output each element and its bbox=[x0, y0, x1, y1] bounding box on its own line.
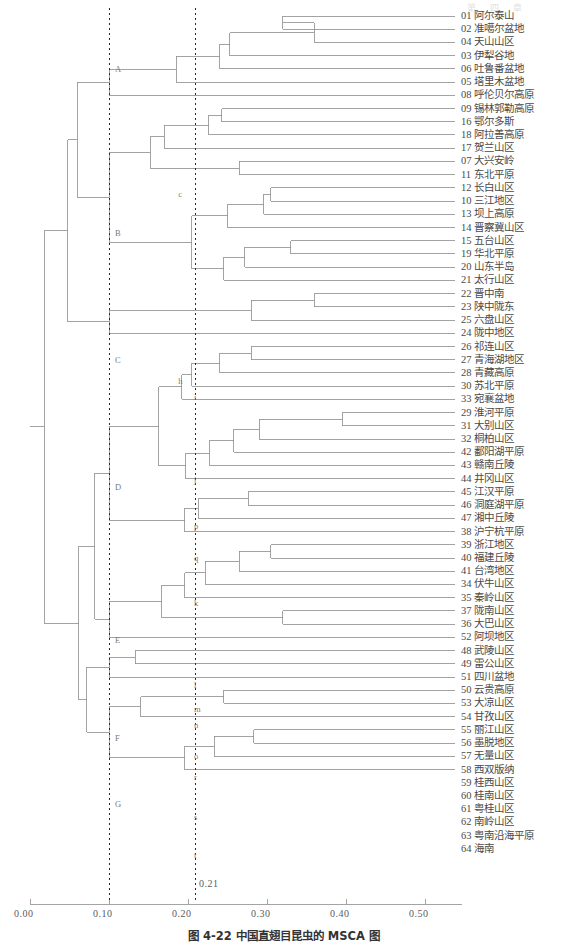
leaf-label: 44 井冈山区 bbox=[461, 473, 514, 484]
leaf-label: 22 晋中南 bbox=[461, 288, 504, 299]
leaf-label: 53 大凉山区 bbox=[461, 697, 514, 708]
leaf-label: 02 准噶尔盆地 bbox=[461, 23, 524, 34]
leaf-label: 03 伊犁谷地 bbox=[461, 50, 514, 61]
leaf-label: 38 沪宁杭平原 bbox=[461, 526, 524, 537]
leaf-label: 42 鄱阳湖平原 bbox=[461, 446, 524, 457]
cluster-label-m: m bbox=[194, 704, 201, 714]
leaf-label: 64 海南 bbox=[461, 843, 494, 854]
leaf-label: 45 江汉平原 bbox=[461, 486, 514, 497]
leaf-label: 07 大兴安岭 bbox=[461, 155, 514, 166]
leaf-label: 10 三江地区 bbox=[461, 195, 514, 206]
leaf-label: 09 锡林郭勒高原 bbox=[461, 103, 534, 114]
leaf-label: 30 苏北平原 bbox=[461, 380, 514, 391]
cluster-label-k: k bbox=[194, 598, 198, 608]
leaf-label: 62 南岭山区 bbox=[461, 816, 514, 827]
cluster-label-n: n bbox=[194, 720, 198, 730]
leaf-label: 49 雷公山区 bbox=[461, 658, 514, 669]
cluster-label-D: D bbox=[115, 482, 121, 492]
cluster-label-t: t bbox=[194, 850, 196, 860]
leaf-label: 18 阿拉善高原 bbox=[461, 129, 524, 140]
leaf-label: 31 大别山区 bbox=[461, 420, 514, 431]
cluster-label-B: B bbox=[115, 228, 121, 238]
leaf-label: 54 甘孜山区 bbox=[461, 711, 514, 722]
leaf-label: 05 塔里木盆地 bbox=[461, 76, 524, 87]
leaf-label: 12 长白山区 bbox=[461, 182, 514, 193]
cluster-label-c: c bbox=[178, 189, 182, 199]
leaf-label: 41 台湾地区 bbox=[461, 565, 514, 576]
leaf-label: 56 墨脱地区 bbox=[461, 737, 514, 748]
axis-tick-2: 0.20 bbox=[172, 908, 192, 919]
figure-caption: 图 4-22 中国直翅目昆虫的 MSCA 图 bbox=[0, 927, 568, 943]
leaf-label: 01 阿尔泰山 bbox=[461, 10, 514, 21]
cluster-label-A: A bbox=[115, 64, 121, 74]
leaf-label: 63 粤南沿海平原 bbox=[461, 830, 534, 841]
dendrogram-figure: 第 四 章 01 阿尔泰山02 准噶尔盆地04 天山山区03 伊犁谷地06 吐鲁… bbox=[0, 0, 568, 949]
cluster-label-G: G bbox=[115, 799, 121, 809]
leaf-label: 55 丽江山区 bbox=[461, 724, 514, 735]
leaf-label: 14 晋察冀山区 bbox=[461, 222, 524, 233]
leaf-label: 35 秦岭山区 bbox=[461, 592, 514, 603]
cut-value-label: 0.21 bbox=[199, 878, 219, 889]
x-axis bbox=[30, 899, 462, 904]
cut-lines bbox=[109, 8, 196, 903]
cluster-label-q: q bbox=[194, 553, 198, 563]
cluster-label-C: C bbox=[115, 355, 121, 365]
leaf-label: 51 四川盆地 bbox=[461, 671, 514, 682]
leaf-label: 58 西双版纳 bbox=[461, 764, 514, 775]
cluster-label-o: o bbox=[194, 751, 198, 761]
leaf-label: 25 六盘山区 bbox=[461, 314, 514, 325]
cluster-label-h: h bbox=[178, 376, 182, 386]
cluster-label-F: F bbox=[115, 733, 120, 743]
axis-tick-3: 0.30 bbox=[251, 908, 271, 919]
cluster-label-E: E bbox=[115, 635, 120, 645]
leaf-label: 33 宛襄盆地 bbox=[461, 393, 514, 404]
leaf-label: 48 武陵山区 bbox=[461, 645, 514, 656]
leaf-label: 06 吐鲁番盆地 bbox=[461, 63, 524, 74]
leaf-label: 39 浙江地区 bbox=[461, 539, 514, 550]
cluster-label-i: i bbox=[194, 392, 196, 402]
leaf-label: 08 呼伦贝尔高原 bbox=[461, 89, 534, 100]
axis-tick-0: 0.00 bbox=[14, 908, 34, 919]
axis-tick-1: 0.10 bbox=[93, 908, 113, 919]
leaf-label: 19 华北平原 bbox=[461, 248, 514, 259]
leaf-label: 23 陕中陇东 bbox=[461, 301, 514, 312]
leaf-label: 37 陇南山区 bbox=[461, 605, 514, 616]
leaf-label: 60 桂南山区 bbox=[461, 790, 514, 801]
leaf-label: 36 大巴山区 bbox=[461, 618, 514, 629]
cluster-label-j: j bbox=[194, 475, 196, 485]
leaf-label: 59 桂西山区 bbox=[461, 777, 514, 788]
leaf-label: 20 山东半岛 bbox=[461, 261, 514, 272]
leaf-label: 27 青海湖地区 bbox=[461, 354, 524, 365]
cluster-label-s: s bbox=[194, 812, 197, 822]
leaf-label: 15 五台山区 bbox=[461, 235, 514, 246]
leaf-label: 50 云贵高原 bbox=[461, 684, 514, 695]
leaf-label: 13 坝上高原 bbox=[461, 208, 514, 219]
leaf-label: 04 天山山区 bbox=[461, 36, 514, 47]
leaf-label: 11 东北平原 bbox=[461, 169, 514, 180]
leaf-label: 57 无量山区 bbox=[461, 750, 514, 761]
cluster-label-l: l bbox=[194, 680, 196, 690]
leaf-label: 29 淮河平原 bbox=[461, 407, 514, 418]
leaf-label: 52 阿坝地区 bbox=[461, 631, 514, 642]
leaf-label: 32 桐柏山区 bbox=[461, 433, 514, 444]
axis-tick-4: 0.40 bbox=[330, 908, 350, 919]
leaf-label: 47 湘中丘陵 bbox=[461, 512, 514, 523]
cluster-label-r: r bbox=[194, 772, 197, 782]
leaf-label: 26 祁连山区 bbox=[461, 341, 514, 352]
leaf-label: 16 鄂尔多斯 bbox=[461, 116, 514, 127]
leaf-label: 21 太行山区 bbox=[461, 274, 514, 285]
leaf-label: 46 洞庭湖平原 bbox=[461, 499, 524, 510]
leaf-label: 24 陇中地区 bbox=[461, 327, 514, 338]
leaf-label: 40 福建丘陵 bbox=[461, 552, 514, 563]
cluster-label-p: p bbox=[194, 521, 198, 531]
leaf-label: 28 青藏高原 bbox=[461, 367, 514, 378]
leaf-label: 17 贺兰山区 bbox=[461, 142, 514, 153]
leaf-label: 43 赣南丘陵 bbox=[461, 459, 514, 470]
leaf-label: 34 伏牛山区 bbox=[461, 578, 514, 589]
tree-links bbox=[30, 16, 455, 770]
axis-tick-5: 0.50 bbox=[409, 908, 429, 919]
leaf-label: 61 粤桂山区 bbox=[461, 803, 514, 814]
